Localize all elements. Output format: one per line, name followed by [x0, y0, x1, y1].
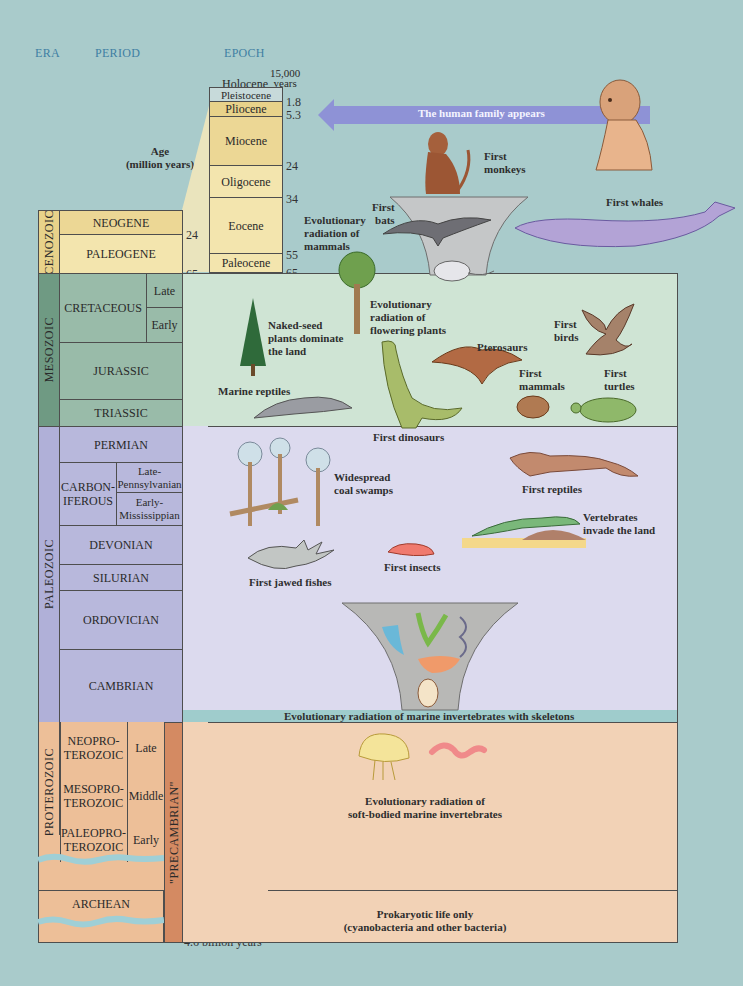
first-whales-label: First whales [606, 196, 663, 209]
first-monkeys-label: Firstmonkeys [484, 150, 526, 176]
tick-24-epoch: 24 [286, 160, 298, 172]
naked-seed-label: Naked-seedplants dominatethe land [268, 319, 344, 358]
reptile-icon [510, 448, 640, 482]
period-cretaceous-late: Late [146, 273, 183, 308]
period-neoproterozoic: NEOPRO- TEROZOIC [60, 722, 128, 774]
bird-icon [576, 300, 636, 360]
human-family-label: The human family appears [418, 107, 545, 119]
first-turtles-label: Firstturtles [604, 367, 635, 393]
tick-24: 24 [186, 229, 198, 241]
worm-icon [430, 740, 486, 770]
period-carboniferous: CARBON- IFEROUS [59, 462, 117, 526]
period-permian: PERMIAN [59, 426, 183, 463]
epoch-miocene: Miocene [209, 116, 283, 166]
flowering-radiation-label: Evolutionaryradiation offlowering plants [370, 298, 446, 337]
period-silurian: SILURIAN [59, 564, 183, 591]
first-reptiles-label: First reptiles [522, 483, 582, 496]
marine-reptiles-label: Marine reptiles [218, 385, 290, 398]
jawed-fish-icon [246, 540, 336, 576]
period-jurassic: JURASSIC [59, 342, 183, 400]
period-neogene: NEOGENE [59, 210, 183, 235]
insect-icon [386, 540, 436, 560]
period-mississippian: Early- Mississippian [116, 492, 183, 526]
tick-34: 34 [286, 193, 298, 205]
era-cenozoic: CENOZOIC [38, 210, 60, 274]
first-birds-label: Firstbirds [554, 318, 578, 344]
period-devonian: DEVONIAN [59, 525, 183, 565]
jellyfish-icon [357, 732, 413, 782]
period-ordovician: ORDOVICIAN [59, 590, 183, 650]
first-dinosaurs-label: First dinosaurs [373, 431, 444, 444]
period-mesoproterozoic: MESOPRO- TEROZOIC [60, 774, 128, 818]
turtle-icon [570, 394, 650, 424]
epoch-oligocene: Oligocene [209, 165, 283, 198]
amphibian-icon [462, 504, 586, 548]
era-precambrian: "PRECAMBRIAN" [164, 722, 183, 943]
monkey-icon [420, 130, 480, 196]
holocene-age: 15,000 years [270, 68, 300, 88]
period-paleogene: PALEOGENE [59, 234, 183, 274]
epoch-paleocene: Paleocene [209, 253, 283, 273]
time-break-wave-icon [38, 852, 164, 868]
coal-swamp-icon [228, 440, 340, 526]
tick-5.3: 5.3 [286, 109, 301, 121]
first-mammals-label: Firstmammals [519, 367, 565, 393]
invertebrate-radiation-funnel [342, 603, 518, 711]
period-mesoproterozoic-sub: Middle [128, 774, 164, 818]
hominid-icon [588, 80, 658, 172]
time-break-wave-icon [38, 914, 164, 930]
epoch-eocene: Eocene [209, 197, 283, 254]
epoch-pleistocene: Pleistocene [209, 87, 283, 102]
vertebrates-land-label: Vertebratesinvade the land [583, 511, 655, 537]
coal-swamps-label: Widespreadcoal swamps [334, 471, 393, 497]
era-mesozoic: MESOZOIC [38, 273, 60, 427]
era-paleozoic: PALEOZOIC [38, 426, 60, 723]
mammal-radiation-label: Evolutionaryradiation ofmammals [304, 214, 366, 253]
period-cambrian: CAMBRIAN [59, 649, 183, 723]
proterozoic-divider [60, 722, 61, 862]
period-triassic: TRIASSIC [59, 399, 183, 427]
period-cretaceous-early: Early [146, 307, 183, 343]
period-cretaceous: CRETACEOUS [59, 273, 147, 343]
period-pennsylvanian: Late- Pennsylvanian [116, 462, 183, 493]
rat-icon [428, 255, 498, 283]
pterosaurs-label: Pterosaurs [477, 341, 528, 354]
first-insects-label: First insects [384, 561, 441, 574]
prokaryotic-label: Prokaryotic life only(cyanobacteria and … [330, 908, 520, 934]
early-mammal-icon [513, 392, 553, 422]
boundary-2.5b [268, 890, 678, 891]
bat-icon [383, 210, 493, 250]
tick-1.8: 1.8 [286, 96, 301, 108]
skeleton-radiation-label: Evolutionary radiation of marine inverte… [284, 710, 574, 723]
epoch-pliocene: Pliocene [209, 101, 283, 117]
conifer-tree-icon [238, 298, 268, 378]
tick-55: 55 [286, 249, 298, 261]
boundary-65 [196, 273, 212, 274]
first-jawed-fishes-label: First jawed fishes [249, 576, 332, 589]
period-neoproterozoic-sub: Late [128, 722, 164, 774]
soft-bodied-label: Evolutionary radiation ofsoft-bodied mar… [330, 795, 520, 821]
boundary-4.6b [264, 942, 678, 943]
first-bats-label: Firstbats [372, 201, 395, 227]
